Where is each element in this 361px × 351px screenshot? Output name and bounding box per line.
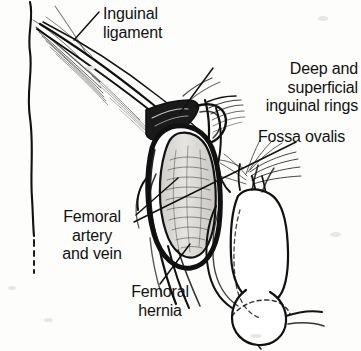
leader-inguinal-ligament: [74, 12, 99, 40]
label-inguinal-rings: Deep and superficial inguinal rings: [178, 60, 358, 116]
scan-speck: [250, 334, 262, 338]
label-femoral-hernia: Femoral hernia: [104, 283, 216, 320]
label-inguinal-ligament: Inguinal ligament: [103, 5, 162, 42]
anatomical-figure: Inguinal ligament Deep and superficial i…: [0, 0, 361, 351]
scan-speck: [8, 286, 16, 290]
scan-speck: [318, 16, 328, 21]
penis-and-scrotum: [206, 164, 324, 349]
body-contour-line: [29, 2, 34, 273]
scan-speck: [86, 66, 95, 70]
scan-speck: [330, 232, 341, 237]
label-fossa-ovalis: Fossa ovalis: [258, 128, 345, 147]
label-femoral-artery-and-vein: Femoral artery and vein: [38, 208, 146, 264]
scan-speck: [44, 318, 53, 322]
